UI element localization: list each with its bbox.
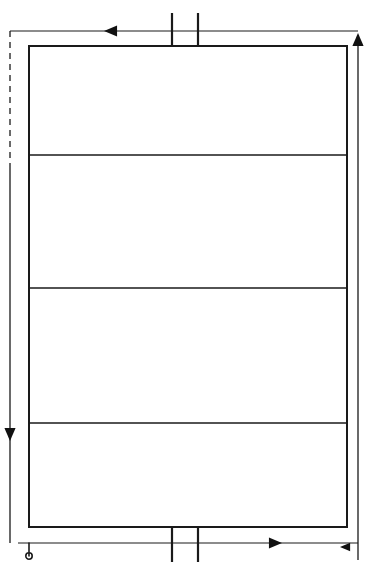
right-conductor-group [340,33,364,560]
bottom-terminal-ticks [172,527,198,562]
bottom-right-arrow-terminal [340,543,350,552]
flow-arrow-up-icon [352,33,363,46]
flow-arrow-down-icon [4,428,15,441]
schematic-drawing [0,0,371,572]
top-conductor-group [10,25,358,36]
diagram-canvas [0,0,371,572]
top-terminal-ticks [172,13,198,47]
main-enclosure [29,46,347,527]
flow-arrow-right-icon [269,537,282,548]
internal-dividers [29,155,347,423]
bottom-left-hook-terminal [26,543,32,559]
flow-arrow-left-icon [104,25,117,36]
bottom-conductor-group [18,537,358,548]
